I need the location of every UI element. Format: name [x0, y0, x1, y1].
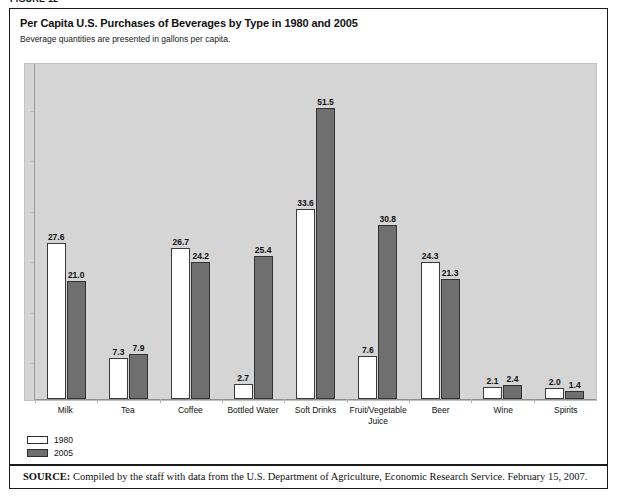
- bar-1980: 7.3: [109, 358, 128, 399]
- bar-group: 2.725.4: [222, 64, 284, 399]
- bar-1980: 7.6: [358, 356, 377, 399]
- x-axis-category-label: Coffee: [159, 405, 222, 427]
- bar-value-label: 24.3: [422, 251, 439, 261]
- chart-title: Per Capita U.S. Purchases of Beverages b…: [20, 17, 358, 29]
- x-axis-category-label: Spirits: [535, 405, 598, 427]
- x-axis-category-label: Soft Drinks: [284, 405, 347, 427]
- x-axis-category-label: Milk: [34, 405, 97, 427]
- bar-group: 33.651.5: [284, 64, 346, 399]
- bar-value-label: 24.2: [193, 251, 210, 261]
- bar-2005: 24.2: [191, 262, 210, 399]
- legend-swatch-2005-icon: [27, 449, 48, 457]
- legend-label-1980: 1980: [54, 435, 73, 445]
- bar-2005: 1.4: [565, 391, 584, 399]
- bar-2005: 51.5: [316, 108, 335, 399]
- x-axis-category-label: Tea: [97, 405, 160, 427]
- bar-value-label: 30.8: [380, 214, 397, 224]
- bar-1980: 26.7: [171, 248, 190, 399]
- bar-group: 7.630.8: [347, 64, 409, 399]
- chart-legend: 1980 2005: [27, 433, 73, 459]
- legend-swatch-1980-icon: [27, 436, 48, 444]
- legend-label-2005: 2005: [54, 448, 73, 458]
- bar-2005: 2.4: [503, 385, 522, 399]
- bar-value-label: 7.9: [133, 343, 145, 353]
- bar-value-label: 7.6: [362, 345, 374, 355]
- bar-value-label: 51.5: [317, 97, 334, 107]
- x-axis-category-label: Bottled Water: [222, 405, 285, 427]
- bar-value-label: 26.7: [173, 237, 190, 247]
- source-text: Compiled by the staff with data from the…: [70, 471, 587, 482]
- bar-2005: 21.0: [67, 281, 86, 400]
- bar-2005: 21.3: [441, 279, 460, 399]
- bar-value-label: 33.6: [297, 198, 314, 208]
- bar-value-label: 2.7: [237, 373, 249, 383]
- bar-group: 7.37.9: [97, 64, 159, 399]
- bar-value-label: 2.4: [507, 374, 519, 384]
- source-note: SOURCE: Compiled by the staff with data …: [23, 471, 595, 482]
- chart-subtitle: Beverage quantities are presented in gal…: [20, 34, 230, 44]
- bar-group: 27.621.0: [35, 64, 97, 399]
- figure-number-label: FIGURE 12: [10, 0, 58, 3]
- x-axis-line: [34, 399, 596, 400]
- bar-value-label: 7.3: [113, 347, 125, 357]
- bar-value-label: 2.0: [549, 377, 561, 387]
- bar-groups: 27.621.07.37.926.724.22.725.433.651.57.6…: [35, 64, 596, 399]
- bar-group: 26.724.2: [160, 64, 222, 399]
- bar-1980: 33.6: [296, 209, 315, 399]
- bar-value-label: 21.3: [442, 268, 459, 278]
- x-axis-category-label: Wine: [472, 405, 535, 427]
- x-axis-category-label: Fruit/VegetableJuice: [347, 405, 410, 427]
- bar-group: 2.01.4: [534, 64, 596, 399]
- x-axis-category-label: Beer: [409, 405, 472, 427]
- bar-value-label: 1.4: [569, 380, 581, 390]
- bar-value-label: 21.0: [68, 270, 85, 280]
- bar-1980: 2.7: [234, 384, 253, 399]
- x-axis-category-labels: MilkTeaCoffeeBottled WaterSoft DrinksFru…: [34, 405, 597, 427]
- figure-frame: Per Capita U.S. Purchases of Beverages b…: [9, 8, 608, 489]
- bar-1980: 2.1: [483, 387, 502, 399]
- bar-group: 2.12.4: [471, 64, 533, 399]
- bar-value-label: 2.1: [487, 376, 499, 386]
- bar-group: 24.321.3: [409, 64, 471, 399]
- bar-2005: 25.4: [254, 256, 273, 399]
- source-divider: [10, 464, 607, 466]
- bar-value-label: 25.4: [255, 245, 272, 255]
- plot-area: 27.621.07.37.926.724.22.725.433.651.57.6…: [24, 63, 597, 401]
- bar-2005: 30.8: [378, 225, 397, 399]
- source-prefix: SOURCE:: [23, 471, 70, 482]
- bar-2005: 7.9: [129, 354, 148, 399]
- bar-value-label: 27.6: [48, 232, 65, 242]
- legend-item-2005: 2005: [27, 446, 73, 459]
- bar-1980: 24.3: [421, 262, 440, 399]
- bar-1980: 27.6: [47, 243, 66, 399]
- legend-item-1980: 1980: [27, 433, 73, 446]
- bar-1980: 2.0: [545, 388, 564, 399]
